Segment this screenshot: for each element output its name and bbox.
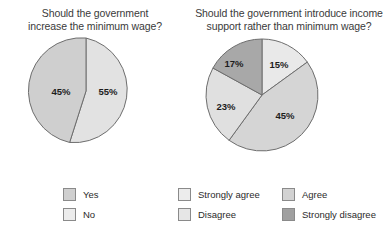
pie-label-disagree: 23% — [216, 101, 236, 112]
pie-label-yes: 55% — [98, 86, 118, 97]
pie-label-agree: 45% — [275, 110, 295, 121]
chart-title-line-2: support rather than minimum wage? — [190, 20, 388, 33]
pie-label-strongly-disagree: 17% — [224, 58, 244, 69]
legend-item-yes[interactable]: Yes — [63, 184, 183, 204]
legend-item-disagree[interactable]: Disagree — [178, 204, 282, 224]
legend-item-strongly-disagree[interactable]: Strongly disagree — [282, 204, 386, 224]
legend-swatch-no — [63, 208, 76, 221]
chart-panel-income-support: Should the government introduce income s… — [190, 0, 388, 178]
legend-income-support: Strongly agree Agree Disagree Strongly d… — [178, 184, 388, 224]
chart-title-line-1: Should the government introduce income — [190, 7, 388, 20]
chart-title-minimum-wage: Should the government increase the minim… — [0, 0, 190, 33]
chart-panel-minimum-wage: Should the government increase the minim… — [0, 0, 190, 173]
legend-label-no: No — [83, 208, 95, 221]
chart-title-line-1: Should the government — [0, 7, 190, 20]
legend-item-strongly-agree[interactable]: Strongly agree — [178, 184, 282, 204]
legend-swatch-agree — [282, 188, 295, 201]
legend-label-strongly-disagree: Strongly disagree — [302, 208, 376, 221]
legend-label-strongly-agree: Strongly agree — [198, 188, 260, 201]
legend-label-disagree: Disagree — [198, 208, 236, 221]
chart-title-income-support: Should the government introduce income s… — [190, 0, 388, 33]
pie-chart-income-support: 15% 45% 23% 17% — [190, 33, 388, 178]
legend-label-yes: Yes — [83, 188, 99, 201]
pie-chart-minimum-wage: 55% 45% — [0, 33, 190, 173]
chart-title-line-2: increase the minimum wage? — [0, 20, 190, 33]
pie-label-strongly-agree: 15% — [269, 59, 289, 70]
pie-svg-minimum-wage: 55% 45% — [0, 33, 190, 173]
legend-item-agree[interactable]: Agree — [282, 184, 386, 204]
legend-swatch-yes — [63, 188, 76, 201]
pie-label-no: 45% — [51, 86, 71, 97]
legend-minimum-wage: Yes No — [63, 184, 183, 224]
legend-label-agree: Agree — [302, 188, 327, 201]
pie-svg-income-support: 15% 45% 23% 17% — [190, 33, 388, 178]
legend-swatch-strongly-disagree — [282, 208, 295, 221]
legend-swatch-disagree — [178, 208, 191, 221]
legend-swatch-strongly-agree — [178, 188, 191, 201]
legend-item-no[interactable]: No — [63, 204, 183, 224]
